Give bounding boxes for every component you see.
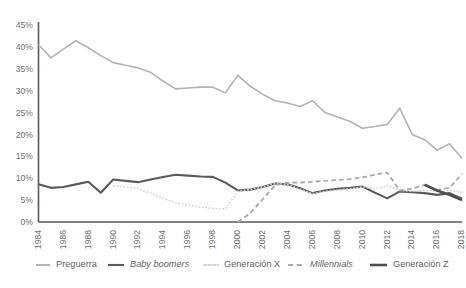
y-tick-label: 10%: [16, 173, 34, 183]
legend-label: Millennials: [310, 259, 353, 269]
x-tick-label: 2012: [382, 230, 392, 249]
x-tick-label: 1992: [132, 230, 142, 249]
x-tick-label: 1994: [157, 230, 167, 249]
chart-canvas: 0%5%10%15%20%25%30%35%40%45% 19841986198…: [0, 0, 466, 288]
x-tick-label: 2000: [232, 230, 242, 249]
y-tick-label: 0%: [21, 217, 34, 227]
legend-label: Generación X: [224, 259, 280, 269]
y-tick-label: 30%: [16, 86, 34, 96]
x-tick-label: 1984: [33, 230, 43, 249]
x-tick-label: 1988: [83, 230, 93, 249]
y-tick-label: 20%: [16, 130, 34, 140]
series-line: [39, 41, 463, 159]
x-tick-label: 2014: [406, 230, 416, 249]
y-axis-tick-labels: 0%5%10%15%20%25%30%35%40%45%: [16, 20, 34, 227]
x-tick-label: 1990: [108, 230, 118, 249]
legend-label: Generación Z: [393, 259, 449, 269]
legend-label: Preguerra: [56, 259, 98, 269]
x-tick-label: 2004: [282, 230, 292, 249]
x-tick-label: 2018: [456, 230, 466, 249]
legend-label: Baby boomers: [130, 259, 190, 269]
x-tick-label: 2002: [257, 230, 267, 249]
y-tick-label: 40%: [16, 42, 34, 52]
x-axis-tick-labels: 1984198619881990199219941996199820002002…: [33, 230, 466, 249]
x-tick-label: 2016: [431, 230, 441, 249]
x-tick-label: 1998: [207, 230, 217, 249]
x-tick-label: 1996: [182, 230, 192, 249]
line-chart: 0%5%10%15%20%25%30%35%40%45% 19841986198…: [0, 0, 466, 288]
series-lines: [39, 41, 463, 222]
series-line: [425, 185, 462, 200]
y-tick-label: 35%: [16, 64, 34, 74]
y-tick-label: 5%: [21, 195, 34, 205]
y-tick-label: 45%: [16, 20, 34, 30]
x-tick-label: 2008: [332, 230, 342, 249]
series-line: [39, 175, 463, 199]
x-tick-label: 2006: [307, 230, 317, 249]
y-tick-label: 25%: [16, 108, 34, 118]
x-tick-label: 1986: [58, 230, 68, 249]
x-tick-label: 2010: [357, 230, 367, 249]
chart-legend: PreguerraBaby boomersGeneración XMillenn…: [36, 259, 449, 269]
y-tick-label: 15%: [16, 151, 34, 161]
series-line: [238, 173, 462, 222]
series-line: [113, 183, 462, 208]
